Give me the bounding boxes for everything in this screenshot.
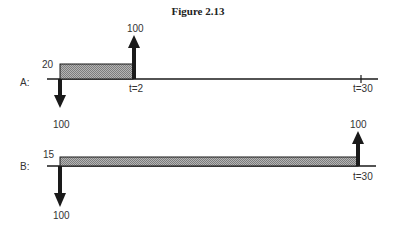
time-label-t30-b: t=30 (353, 171, 373, 182)
diagram-b-label: B: (20, 161, 29, 172)
up-arrow-value-b: 100 (350, 119, 367, 130)
down-arrow-value-a: 100 (53, 119, 70, 130)
diagram-a-label: A: (20, 77, 29, 88)
box-height-label-a: 20 (42, 59, 54, 70)
diagram-a: A: 20 100 100 t=2 t=30 (20, 23, 378, 130)
down-arrow-value-b: 100 (53, 210, 70, 221)
arrow-down-icon (54, 166, 66, 207)
diagram-b: B: 15 100 100 t=30 (20, 119, 376, 221)
up-arrow-value-a: 100 (127, 23, 144, 34)
cash-flow-diagram: A: 20 100 100 t=2 t=30 B: 15 100 (0, 0, 396, 229)
payment-box-a (60, 64, 133, 79)
time-label-t30-a: t=30 (353, 83, 373, 94)
box-height-label-b: 15 (43, 149, 55, 160)
arrow-down-icon (54, 79, 66, 108)
time-label-t2: t=2 (129, 83, 144, 94)
payment-box-b (60, 157, 358, 166)
